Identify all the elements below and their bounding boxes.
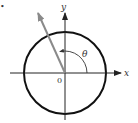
x-axis-label: x: [124, 68, 129, 78]
angle-theta-label: θ: [82, 49, 88, 59]
bullet: •: [0, 2, 5, 11]
terminal-side-vector: [38, 13, 65, 73]
y-axis-label: y: [60, 2, 67, 12]
unit-circle-diagram: • x y 0 θ: [0, 0, 138, 123]
origin-label: 0: [57, 76, 62, 85]
